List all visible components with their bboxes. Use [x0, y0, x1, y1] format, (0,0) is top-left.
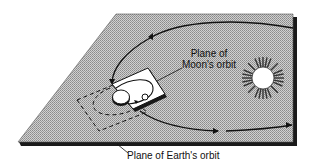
moon-icon [142, 94, 148, 100]
moon-plane-label: Plane of Moon's orbit [178, 48, 240, 70]
moon-plane-label-line1: Plane of [178, 48, 240, 59]
sun-icon [242, 57, 284, 99]
earth-plane-label: Plane of Earth's orbit [127, 150, 220, 161]
earth-icon [112, 90, 130, 106]
moon-plane-label-line2: Moon's orbit [178, 59, 240, 70]
orbit-planes-diagram [0, 0, 310, 164]
